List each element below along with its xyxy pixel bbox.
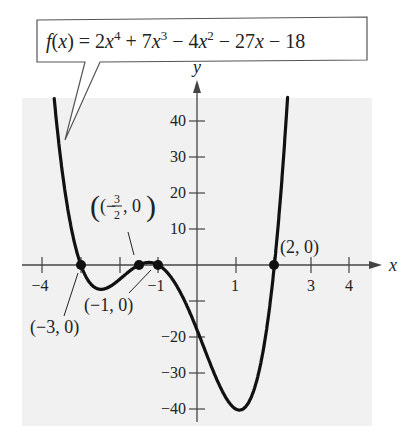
x-tick-minus-1: −1 [147,277,164,294]
label-point-minus-3: (−3, 0) [30,317,79,338]
function-equation: f(x) = 2x4 + 7x3 − 4x2 − 27x − 18 [46,28,305,53]
x-tick-1: 1 [231,277,239,294]
y-tick-minus-40: −40 [161,400,186,417]
chart-canvas: y 40 30 20 10 −20 −30 −40 x −4 −1 1 3 [0,0,414,441]
x-tick-minus-4: −4 [31,277,48,294]
x-axis-label: x [388,255,397,275]
label-point-minus-1: (−1, 0) [84,295,133,316]
svg-text:, 0: , 0 [123,196,141,216]
point-2 [269,260,279,270]
point-minus-3-halves [134,260,144,270]
y-tick-20: 20 [170,184,186,201]
y-tick-10: 10 [170,220,186,237]
svg-text:3: 3 [114,192,120,206]
svg-text:2: 2 [114,208,120,222]
point-minus-1 [153,260,163,270]
x-tick-3: 3 [307,277,315,294]
label-point-2: (2, 0) [280,237,319,258]
x-tick-4: 4 [345,277,353,294]
y-tick-30: 30 [170,148,186,165]
y-tick-minus-30: −30 [161,364,186,381]
y-axis-arrow-icon [193,80,201,93]
svg-text:(: ( [90,189,100,223]
svg-text:): ) [146,189,156,223]
y-tick-minus-20: −20 [161,328,186,345]
x-axis-arrow-icon [369,261,382,269]
point-minus-3 [76,260,86,270]
y-tick-40: 40 [170,112,186,129]
